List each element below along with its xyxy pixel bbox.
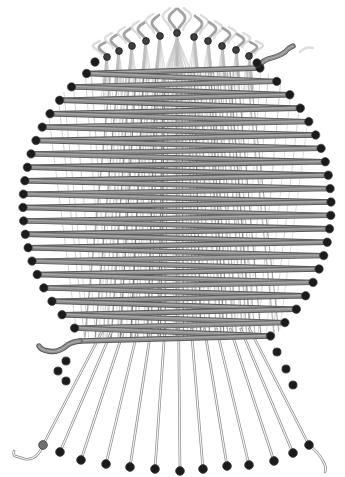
woven-sphere-illustration: [0, 0, 345, 477]
figure-canvas: [0, 0, 345, 477]
